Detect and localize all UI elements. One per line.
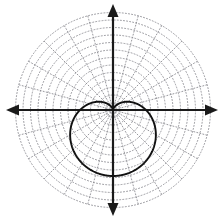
polar-plot-svg (0, 0, 224, 220)
x-axis-right-arrowhead (205, 105, 218, 116)
y-axis-top-arrowhead (108, 4, 119, 17)
grid-spoke (113, 110, 182, 179)
grid-spoke (88, 110, 113, 204)
coordinate-axes (6, 4, 218, 216)
polar-chart-figure (0, 0, 224, 220)
y-axis-bottom-arrowhead (108, 203, 119, 216)
grid-spoke (19, 110, 113, 135)
x-axis-left-arrowhead (6, 105, 19, 116)
